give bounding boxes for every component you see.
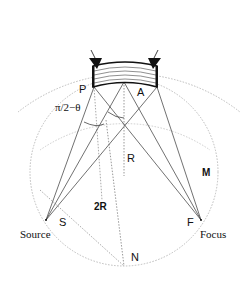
label-angle: π/2−θ: [55, 101, 81, 113]
label-R: R: [127, 152, 135, 164]
label-P: P: [79, 83, 86, 95]
twoR-line: [106, 120, 124, 266]
label-S: S: [59, 216, 66, 228]
label-focus: Focus: [200, 228, 226, 240]
angle-arc-2: [108, 112, 124, 118]
label-N: N: [131, 251, 139, 263]
rowland-circle-diagram: P A π/2−θ R M 2R S Source F Focus N: [0, 0, 247, 286]
p-dotted-line: [94, 87, 102, 200]
label-source: Source: [20, 228, 51, 240]
point-S: [45, 219, 47, 221]
label-2R: 2R: [94, 201, 108, 212]
label-A: A: [137, 86, 145, 98]
label-F: F: [187, 216, 194, 228]
inner-arc: [40, 124, 210, 150]
bent-crystal: [92, 62, 158, 87]
point-F: [200, 219, 202, 221]
label-M: M: [202, 167, 210, 178]
